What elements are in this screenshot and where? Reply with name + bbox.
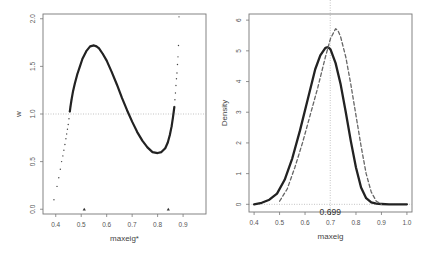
left-data-point <box>175 92 176 93</box>
left-y-tick-label: 1.5 <box>29 61 36 70</box>
left-y-axis-label: w <box>14 111 23 118</box>
right-y-tick-label: 0 <box>235 202 242 206</box>
right-x-tick-label: 0.8 <box>351 219 360 226</box>
right-y-axis-label: Density <box>220 100 229 127</box>
left-x-axis-label: maxeig* <box>110 234 139 243</box>
left-x-tick-label: 0.6 <box>102 221 111 228</box>
left-data-point <box>62 155 63 156</box>
left-panel-w-vs-maxeig-star: 0.40.50.60.70.80.90.00.51.01.52.0maxeig*… <box>0 0 217 255</box>
right-y-tick-label: 2 <box>235 141 242 145</box>
figure: 0.40.50.60.70.80.90.00.51.01.52.0maxeig*… <box>0 0 434 255</box>
left-data-point <box>68 118 69 119</box>
left-plot-frame <box>43 14 206 214</box>
right-x-tick-label: 0.4 <box>250 219 259 226</box>
left-data-point <box>175 85 176 86</box>
left-y-tick-label: 2.0 <box>29 14 36 23</box>
left-data-point <box>56 186 57 187</box>
left-data-point <box>66 133 67 134</box>
left-data-point <box>68 124 69 125</box>
right-x-tick-label: 0.9 <box>377 219 386 226</box>
left-data-point <box>177 56 178 57</box>
right-y-tick-label: 3 <box>235 110 242 114</box>
left-data-point <box>176 72 177 73</box>
right-x-axis-label: maxeig <box>318 232 344 241</box>
left-y-tick-label: 0.5 <box>29 157 36 166</box>
left-data-point <box>60 169 61 170</box>
left-triangle-marker <box>83 208 86 211</box>
left-data-point <box>177 64 178 65</box>
left-data-point <box>63 149 64 150</box>
right-y-tick-label: 6 <box>235 18 242 22</box>
right-y-tick-label: 5 <box>235 49 242 53</box>
left-triangle-marker <box>167 208 170 211</box>
left-y-tick-label: 1.0 <box>29 109 36 118</box>
left-data-point <box>176 78 177 79</box>
right-x-tick-label: 0.6 <box>301 219 310 226</box>
right-x-tick-label: 0.5 <box>275 219 284 226</box>
left-data-point <box>178 45 179 46</box>
left-x-tick-label: 0.8 <box>153 221 162 228</box>
right-mode-annotation: 0.699 <box>320 207 342 217</box>
right-y-tick-label: 1 <box>235 171 242 175</box>
left-data-point <box>65 138 66 139</box>
right-panel-density-vs-maxeig: 0.40.50.60.70.80.91.00123456maxeigDensit… <box>217 0 434 255</box>
left-data-point <box>53 199 54 200</box>
left-y-tick-label: 0.0 <box>29 204 36 213</box>
left-x-tick-label: 0.7 <box>128 221 137 228</box>
left-data-point <box>58 177 59 178</box>
left-data-point <box>64 144 65 145</box>
left-x-tick-label: 0.4 <box>51 221 60 228</box>
left-dense-points-band <box>70 45 175 153</box>
left-x-tick-label: 0.9 <box>179 221 188 228</box>
right-y-tick-label: 4 <box>235 79 242 83</box>
left-data-point <box>178 16 179 17</box>
left-x-tick-label: 0.5 <box>77 221 86 228</box>
left-data-point <box>174 99 175 100</box>
right-x-tick-label: 1.0 <box>402 219 411 226</box>
right-x-tick-label: 0.7 <box>326 219 335 226</box>
left-data-point <box>61 161 62 162</box>
left-data-point <box>67 129 68 130</box>
